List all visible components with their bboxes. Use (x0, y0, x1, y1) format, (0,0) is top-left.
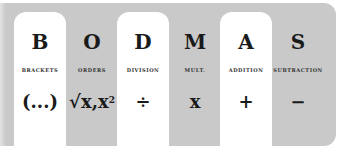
column-subtraction: S SUBTRACTION − (272, 12, 324, 146)
column-addition: A ADDITION + (220, 12, 272, 146)
column-multiplication: M MULT. x (169, 12, 221, 146)
letter-d: D (117, 32, 169, 52)
bodmas-panel: B BRACKETS (...) O ORDERS √x,x2 D DIVISI… (0, 3, 336, 146)
column-orders: O ORDERS √x,x2 (66, 12, 118, 146)
column-brackets: B BRACKETS (...) (14, 12, 66, 146)
column-division: D DIVISION ÷ (117, 12, 169, 146)
letter-b: B (14, 32, 66, 52)
letter-m: M (169, 32, 221, 52)
symbol-orders-base: √x,x (69, 91, 109, 112)
letter-s: S (272, 32, 324, 52)
letter-o: O (66, 32, 118, 52)
symbol-subtraction: − (266, 91, 330, 113)
letter-a: A (220, 32, 272, 52)
label-subtraction: SUBTRACTION (266, 67, 330, 73)
